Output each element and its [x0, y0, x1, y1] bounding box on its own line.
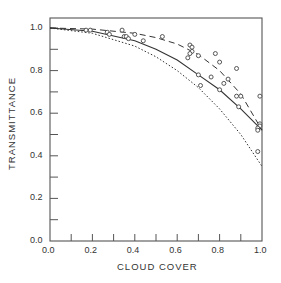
x-tick-label: 1.0: [254, 245, 267, 255]
data-point: [239, 94, 243, 98]
data-point: [160, 35, 164, 39]
y-tick-label: 0.6: [30, 107, 43, 117]
plot-frame: [50, 18, 262, 241]
data-point: [84, 28, 88, 32]
data-point: [88, 28, 92, 32]
data-point: [235, 66, 239, 70]
axis-ticks: [50, 28, 241, 241]
data-point: [186, 56, 190, 60]
data-point: [120, 28, 124, 32]
y-tick-label: 0.0: [30, 235, 43, 245]
x-tick-label: 0.2: [84, 245, 97, 255]
data-point: [258, 94, 262, 98]
data-point: [133, 32, 137, 36]
y-tick-label: 1.0: [30, 22, 43, 32]
data-point: [235, 94, 239, 98]
x-tick-label: 0.0: [42, 245, 55, 255]
data-point: [196, 54, 200, 58]
y-axis-label: TRANSMITTANCE: [6, 77, 17, 170]
data-point: [209, 75, 213, 79]
y-tick-label: 0.2: [30, 192, 43, 202]
data-point: [107, 32, 111, 36]
plot-border: [50, 18, 262, 241]
curves: [50, 28, 262, 166]
data-point: [237, 105, 241, 109]
data-point: [126, 37, 130, 41]
data-point: [199, 84, 203, 88]
data-points: [84, 28, 262, 153]
x-tick-label: 0.8: [212, 245, 225, 255]
data-point: [196, 73, 200, 77]
data-point: [226, 77, 230, 81]
x-tick-label: 0.4: [127, 245, 140, 255]
data-point: [190, 45, 194, 49]
data-point: [188, 52, 192, 56]
y-tick-label: 0.8: [30, 65, 43, 75]
x-axis-label: CLOUD COVER: [117, 261, 198, 272]
data-point: [218, 88, 222, 92]
y-tick-label: 0.4: [30, 150, 43, 160]
data-point: [213, 52, 217, 56]
x-tick-label: 0.6: [169, 245, 182, 255]
data-point: [256, 150, 260, 154]
data-point: [222, 81, 226, 85]
data-point: [218, 60, 222, 64]
data-point: [141, 39, 145, 43]
data-point: [256, 128, 260, 132]
